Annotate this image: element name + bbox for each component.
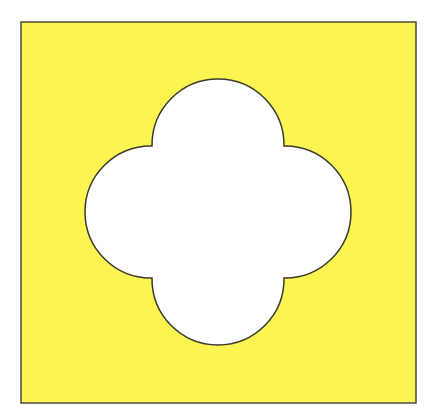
quatrefoil-figure xyxy=(0,0,437,420)
